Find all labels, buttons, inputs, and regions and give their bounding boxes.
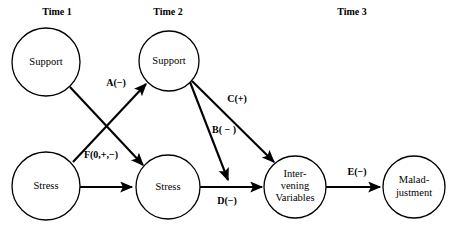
node-label-intervening-line3: Variables: [275, 192, 314, 203]
time-header-3: Time 3: [337, 6, 367, 17]
time-header-2: Time 2: [153, 6, 183, 17]
edge-label-b: B( − ): [212, 124, 236, 136]
node-label-support-t2: Support: [152, 55, 185, 66]
node-label-intervening-line2: vening: [281, 180, 310, 191]
diagram-canvas: Support Support Stress Stress Inter- ven…: [0, 0, 456, 231]
edge-label-f: F(0,+,−): [84, 149, 118, 161]
node-label-maladjustment-line2: justment: [395, 187, 432, 198]
node-label-maladjustment-line1: Malad-: [399, 174, 430, 185]
edge-label-d: D(−): [217, 195, 237, 207]
node-label-stress-t2: Stress: [155, 181, 180, 192]
path-diagram: Support Support Stress Stress Inter- ven…: [0, 0, 456, 231]
edge-label-e: E(−): [347, 166, 366, 178]
edge-label-c: C(+): [227, 93, 247, 105]
node-label-stress-t1: Stress: [33, 180, 58, 191]
edge-label-a: A(−): [106, 77, 126, 89]
time-header-1: Time 1: [42, 6, 72, 17]
node-label-intervening-line1: Inter-: [283, 168, 307, 179]
time-headers-layer: Time 1 Time 2 Time 3: [42, 6, 367, 17]
node-label-support-t1: Support: [29, 56, 62, 67]
